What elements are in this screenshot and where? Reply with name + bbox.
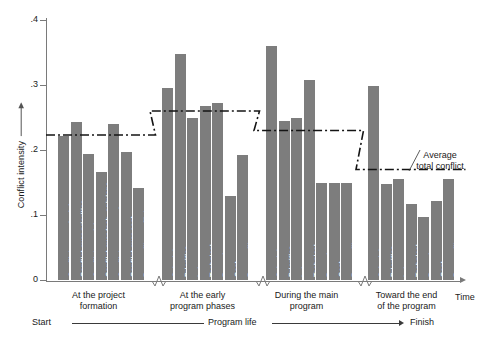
footer-finish-label: Finish <box>410 317 434 327</box>
group-caption-2-line1: At the early <box>150 290 255 301</box>
footer-line-right <box>272 323 400 324</box>
annotation-line2: total conflict <box>398 161 482 172</box>
bar-2-labor <box>187 118 199 281</box>
footer-middle-label: Program life <box>208 317 257 327</box>
footer-line-left <box>72 323 204 324</box>
bar-4-personality <box>443 179 455 280</box>
bar-2-procedures <box>212 103 224 280</box>
y-axis-arrow-icon <box>16 102 26 136</box>
bar-3-technical <box>304 80 316 280</box>
group-caption-4-line1: Toward the end <box>354 290 459 301</box>
bar-1-priorities <box>71 122 83 280</box>
footer-arrow-icon <box>399 320 404 326</box>
y-tick-label-0: 0 <box>16 274 38 284</box>
bar-1-procedures <box>108 124 120 280</box>
y-tick-0.3 <box>40 85 46 86</box>
y-tick-label-0.4: .4 <box>16 14 38 24</box>
bar-1-schedules <box>58 136 70 280</box>
y-axis-line <box>46 18 47 281</box>
bar-3-priorities <box>279 121 291 280</box>
bar-1-labor <box>83 154 95 280</box>
group-caption-3: During the main program <box>254 290 359 312</box>
bar-4-priorities <box>381 184 393 280</box>
footer-start-label: Start <box>32 317 51 327</box>
bar-4-labor <box>393 179 405 280</box>
bar-1-cost <box>121 152 133 280</box>
group-caption-2-line2: program phases <box>150 301 255 312</box>
y-axis-title: Conflict intensity <box>16 90 27 220</box>
bar-3-labor <box>291 118 303 281</box>
bar-4-schedules <box>368 86 380 280</box>
group-caption-1-line2: formation <box>46 301 151 312</box>
group-caption-3-line1: During the main <box>254 290 359 301</box>
bar-3-procedures <box>316 183 328 280</box>
bar-2-personality <box>237 155 249 280</box>
bar-1-technical <box>96 172 108 280</box>
x-axis-line <box>46 281 461 282</box>
y-tick-0.1 <box>40 215 46 216</box>
bar-2-technical <box>200 106 212 280</box>
y-axis-title-text: Conflict intensity <box>16 141 26 208</box>
group-caption-2: At the early program phases <box>150 290 255 312</box>
x-axis-arrow-icon <box>460 277 466 283</box>
group-caption-1: At the project formation <box>46 290 151 312</box>
average-total-conflict-annotation: Average total conflict <box>398 150 482 172</box>
y-tick-label-0.3: .3 <box>16 79 38 89</box>
bar-2-priorities <box>175 54 187 280</box>
bar-4-technical <box>406 204 418 280</box>
y-tick-0.2 <box>40 150 46 151</box>
bar-3-schedules <box>266 46 278 280</box>
bar-2-cost <box>225 196 237 281</box>
group-caption-4-line2: of the program <box>354 301 459 312</box>
group-caption-3-line2: program <box>254 301 359 312</box>
bar-3-personality <box>341 183 353 280</box>
bar-2-schedules <box>162 88 174 280</box>
bar-1-personality <box>133 188 145 280</box>
group-caption-4: Toward the end of the program <box>354 290 459 312</box>
bar-4-cost <box>431 201 443 280</box>
annotation-line1: Average <box>398 150 482 161</box>
conflict-intensity-chart: .4 .3 .2 .1 0 Conflict intensity Time Co… <box>0 0 488 340</box>
y-tick-0.4 <box>40 20 46 21</box>
group-caption-1-line1: At the project <box>46 290 151 301</box>
bar-4-procedures <box>418 217 430 280</box>
bar-3-cost <box>329 183 341 280</box>
